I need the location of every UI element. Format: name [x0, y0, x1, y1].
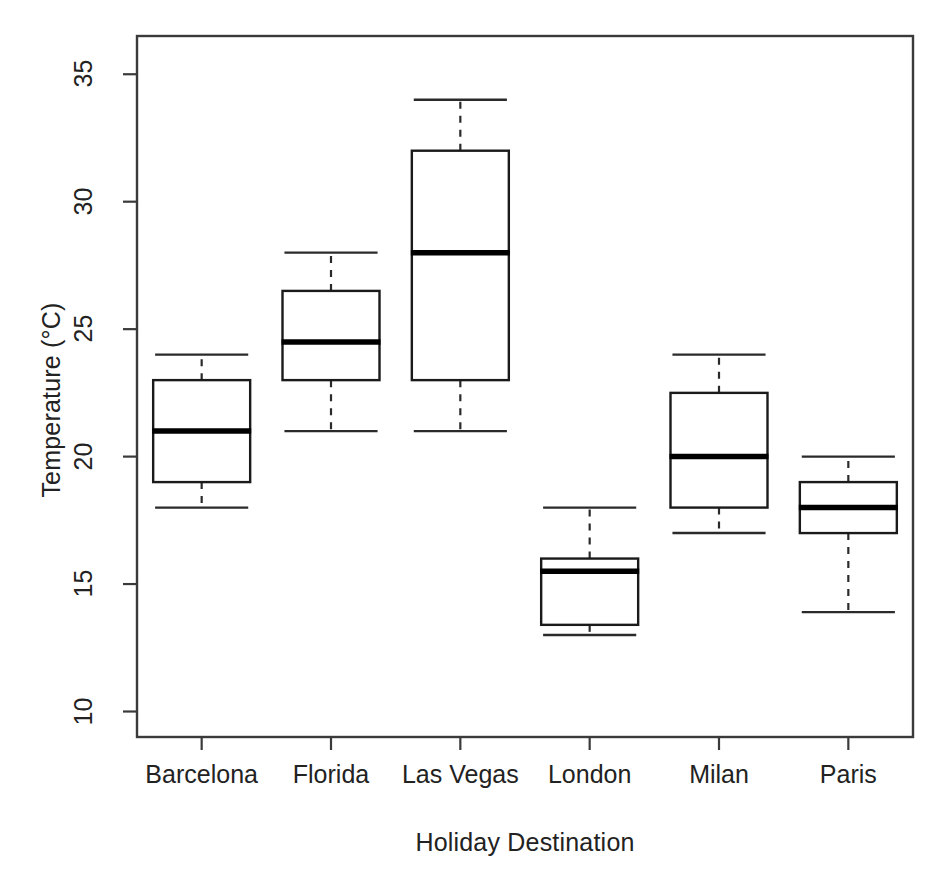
box-iqr — [412, 151, 509, 380]
box-plot-paris — [799, 457, 898, 612]
box-plot-barcelona — [152, 355, 251, 508]
box-iqr — [283, 291, 380, 380]
x-axis-title: Holiday Destination — [137, 828, 913, 857]
y-tick-label: 10 — [69, 681, 98, 741]
box-plot-las-vegas — [411, 100, 510, 431]
box-iqr — [541, 559, 638, 625]
box-plot-london — [540, 508, 639, 635]
y-tick-label: 30 — [69, 171, 98, 231]
y-tick-label: 15 — [69, 554, 98, 614]
plot-frame — [137, 36, 913, 737]
box-iqr — [671, 393, 768, 508]
y-tick-label: 20 — [69, 426, 98, 486]
plot-area — [0, 0, 940, 890]
y-tick-label: 25 — [69, 299, 98, 359]
x-tick-label-paris: Paris — [758, 760, 938, 789]
boxplot-figure: Temperature (°C) 101520253035 BarcelonaF… — [0, 0, 940, 890]
box-plot-milan — [670, 355, 769, 533]
y-tick-label: 35 — [69, 44, 98, 104]
box-plot-florida — [282, 253, 381, 431]
